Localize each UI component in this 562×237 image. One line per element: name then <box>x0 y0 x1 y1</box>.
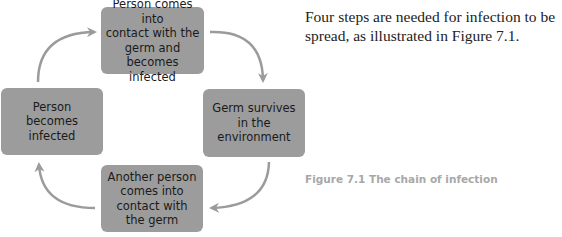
step-box-bottom: Another person comes into contact with t… <box>101 165 203 232</box>
arrow-top-to-right <box>210 32 263 80</box>
arrow-left-to-top <box>38 32 94 82</box>
figure-caption: Figure 7.1 The chain of infection <box>305 173 498 185</box>
arrow-bottom-to-left <box>39 165 95 208</box>
intro-paragraph: Four steps are needed for infection to b… <box>305 7 562 45</box>
step-box-top: Person comes into contact with the germ … <box>101 7 204 74</box>
arrow-right-to-bottom <box>212 162 269 208</box>
step-box-right: Germ survives in the environment <box>203 89 305 157</box>
step-box-left: Person becomes infected <box>1 88 103 155</box>
